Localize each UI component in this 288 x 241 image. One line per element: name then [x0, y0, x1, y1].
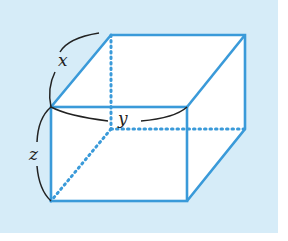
arc-z-upper	[37, 107, 51, 142]
cuboid-fill	[51, 35, 245, 201]
cuboid-diagram: x y z	[0, 0, 288, 241]
arc-z-lower	[37, 166, 51, 201]
label-y: y	[117, 108, 128, 128]
label-z: z	[28, 144, 39, 164]
label-x: x	[58, 50, 68, 70]
